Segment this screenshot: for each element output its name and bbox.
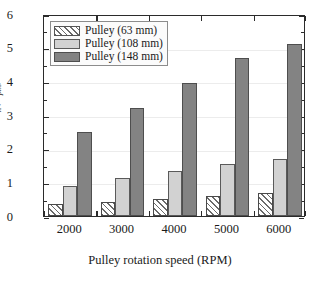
y-tick-label: 5 xyxy=(0,42,13,55)
bar xyxy=(206,196,221,216)
x-tick-top xyxy=(305,16,306,21)
bar xyxy=(130,108,145,216)
legend: Pulley (63 mm) Pulley (108 mm) Pulley (1… xyxy=(50,21,168,66)
y-axis-title-omega: ω xyxy=(0,95,1,103)
legend-swatch-pulley-63mm xyxy=(54,26,80,36)
y-tick-major-right xyxy=(299,218,304,219)
bar xyxy=(101,202,116,216)
x-tick-label: 4000 xyxy=(144,222,204,237)
legend-swatch-pulley-148mm xyxy=(54,52,80,62)
y-tick-label: 2 xyxy=(0,143,13,156)
bar xyxy=(168,171,183,216)
bar xyxy=(48,204,63,216)
bar xyxy=(115,178,130,216)
legend-item: Pulley (108 mm) xyxy=(54,37,163,50)
x-axis-title: Pulley rotation speed (RPM) xyxy=(0,253,320,268)
plot-area: Pulley (63 mm) Pulley (108 mm) Pulley (1… xyxy=(43,15,305,217)
y-tick-label: 3 xyxy=(0,110,13,123)
legend-label-pulley-148mm: Pulley (148 mm) xyxy=(85,51,163,63)
y-axis-title-paren-open: ( xyxy=(0,104,1,108)
bar xyxy=(182,83,197,216)
y-tick-label: 6 xyxy=(0,9,13,22)
y-tick-label: 0 xyxy=(0,211,13,224)
bar xyxy=(258,193,273,216)
bar xyxy=(63,186,78,216)
legend-label-pulley-63mm: Pulley (63 mm) xyxy=(85,25,157,37)
legend-swatch-pulley-108mm xyxy=(54,39,80,49)
y-tick-label: 4 xyxy=(0,76,13,89)
legend-item: Pulley (63 mm) xyxy=(54,24,163,37)
x-tick-label: 5000 xyxy=(196,222,256,237)
x-tick-label: 2000 xyxy=(39,222,99,237)
bar xyxy=(153,199,168,217)
x-tick-label: 3000 xyxy=(92,222,152,237)
bar xyxy=(235,58,250,216)
x-tick-label: 6000 xyxy=(249,222,309,237)
bar xyxy=(273,159,288,216)
legend-item: Pulley (148 mm) xyxy=(54,50,163,63)
bar xyxy=(287,44,302,216)
bar xyxy=(77,132,92,216)
y-tick-label: 1 xyxy=(0,177,13,190)
bar-chart-figure: En(ωpm) 0123456 20003000400050006000 Pul… xyxy=(0,0,320,282)
x-tick xyxy=(305,211,306,216)
bar xyxy=(220,164,235,216)
y-tick-major xyxy=(44,218,49,219)
legend-label-pulley-108mm: Pulley (108 mm) xyxy=(85,38,163,50)
